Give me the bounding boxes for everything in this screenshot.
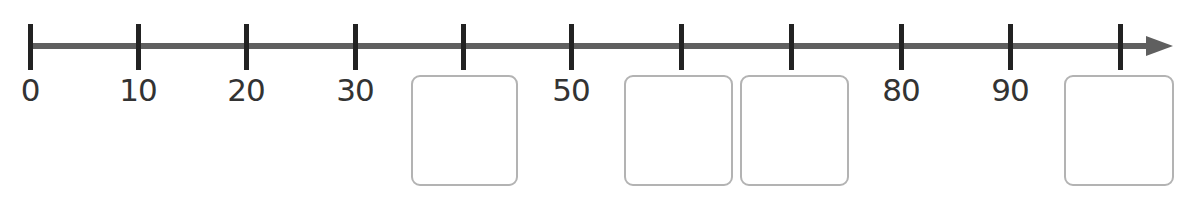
tick-mark-90	[1008, 24, 1013, 70]
tick-label-90: 90	[991, 72, 1028, 108]
tick-mark-30	[353, 24, 358, 70]
tick-mark-70	[789, 24, 794, 70]
answer-box-40[interactable]	[411, 75, 518, 186]
tick-mark-0	[28, 24, 33, 70]
answer-box-100[interactable]	[1064, 75, 1174, 186]
tick-label-20: 20	[227, 72, 264, 108]
tick-mark-100	[1118, 24, 1123, 70]
tick-mark-20	[244, 24, 249, 70]
tick-mark-80	[899, 24, 904, 70]
tick-label-50: 50	[552, 72, 589, 108]
tick-label-0: 0	[21, 72, 40, 108]
arrow-right-icon	[1146, 36, 1173, 56]
number-line-axis	[30, 43, 1152, 49]
answer-box-60[interactable]	[624, 75, 733, 186]
number-line-diagram: 0102030508090	[0, 0, 1186, 198]
tick-label-30: 30	[336, 72, 373, 108]
tick-mark-60	[679, 24, 684, 70]
tick-mark-10	[136, 24, 141, 70]
tick-mark-50	[569, 24, 574, 70]
answer-box-70[interactable]	[740, 75, 849, 186]
tick-label-10: 10	[119, 72, 156, 108]
tick-label-80: 80	[882, 72, 919, 108]
tick-mark-40	[461, 24, 466, 70]
